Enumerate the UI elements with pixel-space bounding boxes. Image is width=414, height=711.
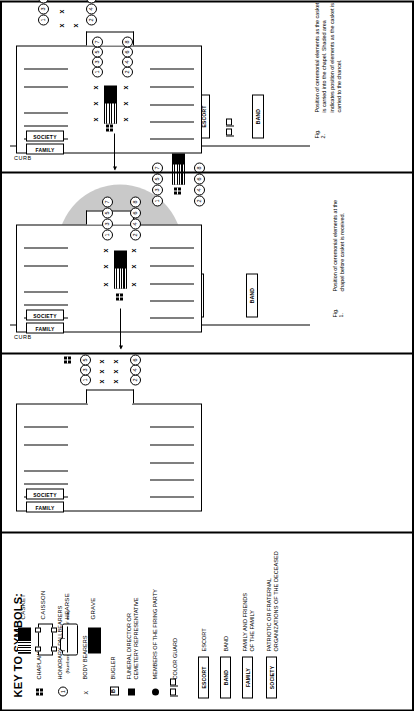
body-bearer-marker: x [98, 359, 105, 363]
chapel-unit-society-fig3: SOCIETY [26, 130, 64, 141]
rotated-artwork: KEY TO SYMBOLS: CHAPLAIN 1 HONORARY PALL… [0, 0, 414, 711]
body-bearer-marker: x [130, 282, 137, 286]
figure-panel-fig1: FAMILY SOCIETY 1 3 5 2 4 6 x x x [2, 355, 412, 531]
pallbearer-marker: 4 [86, 3, 97, 14]
hearse-glyph [62, 623, 78, 655]
key-unit-box-escort: ESCORT [198, 656, 209, 698]
grave-glyph [88, 627, 101, 653]
body-bearer-marker: x [58, 23, 65, 27]
casket-marker-fig2 [114, 250, 127, 288]
panel-divider [2, 171, 412, 173]
pallbearer-marker: 2 [130, 374, 141, 385]
pallbearer-marker: 7 [102, 196, 113, 207]
key-label-firing-party: MEMBERS OF THE FIRING PARTY [152, 589, 159, 679]
body-bearer-marker: x [58, 9, 65, 13]
key-label-bugler: BUGLER [110, 656, 117, 679]
chapel-unit-family-fig3: FAMILY [26, 143, 64, 154]
pallbearer-marker: 8 [130, 196, 141, 207]
casket-glyph [18, 627, 31, 653]
vehicle-label-hearse: HEARSE [64, 593, 70, 619]
vehicle-label-grave: GRAVE [90, 597, 96, 619]
pallbearer-marker: 1 [80, 374, 91, 385]
body-bearer-marker: x [102, 248, 109, 252]
pallbearer-marker: 3 [80, 364, 91, 375]
pallbearer-marker: 4 [130, 364, 141, 375]
pallbearer-marker: 4 [122, 56, 133, 67]
pallbearer-marker: 5 [80, 354, 91, 365]
pallbearer-marker: 2 [122, 66, 133, 77]
pallbearer-marker: 2 [130, 229, 141, 240]
pallbearer-marker: 1 [92, 66, 103, 77]
pallbearer-marker: 6 [130, 354, 141, 365]
pallbearer-marker: 1 [152, 195, 163, 206]
pallbearer-marker: 3 [38, 3, 49, 14]
figure-panel-fig2: FAMILY SOCIETY x x x x x x 1 3 5 7 2 [2, 174, 412, 352]
flag-icon [170, 689, 178, 696]
key-unit-box-family: FAMILY [242, 656, 253, 698]
chaplain-marker-fig2 [116, 293, 123, 300]
casket-marker-fig3 [104, 85, 117, 123]
key-panel: KEY TO SYMBOLS: CHAPLAIN 1 HONORARY PALL… [2, 533, 412, 709]
pallbearer-marker: 7 [92, 36, 103, 47]
body-bearer-marker: x [102, 282, 109, 286]
numbered-circle-symbol: 1 [58, 686, 68, 696]
body-bearer-marker: x [112, 379, 119, 383]
body-bearer-marker: x [102, 264, 109, 268]
pallbearer-marker: 5 [102, 207, 113, 218]
pallbearer-marker: 3 [152, 184, 163, 195]
body-bearer-marker: x [122, 101, 129, 105]
pallbearer-marker: 8 [122, 36, 133, 47]
key-label-funeral-director: FUNERAL DIRECTOR OR CEMETERY REPRESENTAT… [126, 597, 139, 679]
body-bearer-marker: x [112, 369, 119, 373]
pallbearer-marker: 1 [102, 229, 113, 240]
body-bearer-marker: x [92, 117, 99, 121]
page-root: KEY TO SYMBOLS: CHAPLAIN 1 HONORARY PALL… [0, 0, 414, 711]
key-label-society: PATRIOTIC OR FRATERNAL ORGANIZATIONS OF … [266, 551, 279, 651]
body-bearer-marker: x [122, 117, 129, 121]
diagram-sheet: KEY TO SYMBOLS: CHAPLAIN 1 HONORARY PALL… [0, 0, 414, 711]
chaplain-marker-fig3 [106, 124, 113, 131]
flag-icon [170, 679, 178, 686]
body-bearer-marker: x [122, 85, 129, 89]
filled-square-symbol [128, 688, 135, 695]
filled-circle-symbol [152, 688, 159, 695]
movement-arrow-fig2 [120, 308, 121, 348]
pallbearer-marker: 5 [152, 173, 163, 184]
body-bearer-marker: x [98, 379, 105, 383]
chaplain-marker-street-fig2 [174, 187, 181, 194]
key-label-band: BAND [223, 635, 230, 651]
pallbearer-marker: 1 [38, 14, 49, 25]
pallbearer-marker: 2 [194, 195, 205, 206]
pallbearer-marker: 6 [194, 173, 205, 184]
body-bearer-marker: x [112, 359, 119, 363]
chaplain-symbol [36, 688, 43, 695]
body-bearer-marker: x [92, 85, 99, 89]
pallbearer-marker: 4 [194, 184, 205, 195]
body-bearer-marker: x [92, 101, 99, 105]
flag-pair-symbol [170, 679, 178, 696]
key-label-escort: ESCORT [201, 628, 208, 651]
panel-divider [2, 531, 412, 533]
pallbearer-marker: 5 [92, 46, 103, 57]
vehicle-label-casket: CASKET [20, 593, 26, 619]
pallbearer-marker: 4 [130, 218, 141, 229]
vehicle-label-caisson: CAISSON [40, 590, 46, 619]
pallbearer-marker: 6 [86, 0, 97, 3]
chaplain-marker-fig1 [64, 356, 71, 363]
key-label-color-guard: COLOR GUARD [172, 637, 179, 679]
body-bearer-marker: x [98, 369, 105, 373]
pallbearer-marker: 5 [38, 0, 49, 3]
chapel-unit-family-fig2: FAMILY [26, 322, 64, 333]
caisson-glyph [38, 623, 53, 655]
pallbearer-marker: 3 [92, 56, 103, 67]
pallbearer-marker: 3 [102, 218, 113, 229]
figure-panel-fig3: FAMILY SOCIETY x x x x x x 1 3 5 7 2 4 [2, 0, 412, 171]
body-bearer-marker: x [72, 23, 79, 27]
chapel-unit-society-fig1: SOCIETY [26, 488, 64, 499]
bugler-symbol [110, 686, 119, 695]
key-label-family: FAMILY AND FRIENDS OF THE FAMILY [242, 592, 255, 651]
panel-divider [2, 352, 412, 354]
key-unit-box-band: BAND [220, 656, 231, 698]
x-symbol: x [82, 691, 89, 695]
body-bearer-marker: x [130, 248, 137, 252]
